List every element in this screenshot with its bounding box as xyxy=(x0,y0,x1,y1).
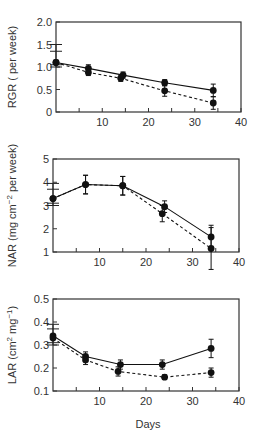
data-point xyxy=(50,335,57,342)
y-axis-title: LAR (cm2 mg−1) xyxy=(5,306,18,384)
x-tick-label: 10 xyxy=(93,256,105,268)
data-point xyxy=(210,87,217,94)
x-tick-label: 10 xyxy=(93,395,105,407)
y-tick-label: 0.5 xyxy=(34,293,49,305)
dashed-series-line xyxy=(53,185,211,249)
y-tick-label: 0.1 xyxy=(34,385,49,397)
y-tick-label: 0.5 xyxy=(37,84,52,96)
x-tick-label: 20 xyxy=(142,116,154,128)
y-tick-label: 0.4 xyxy=(34,316,49,328)
data-point xyxy=(159,210,166,217)
x-axis-title: Days xyxy=(135,418,161,430)
data-point xyxy=(161,87,168,94)
y-tick-label: 1.5 xyxy=(37,39,52,51)
x-tick-label: 40 xyxy=(233,395,245,407)
data-point xyxy=(115,368,122,375)
x-tick-label: 40 xyxy=(233,256,245,268)
data-point xyxy=(208,369,215,376)
data-point xyxy=(50,195,57,202)
nar-panel: 1020304012345NAR (mg cm−2 per week) xyxy=(5,144,245,270)
y-tick-label: 0.3 xyxy=(34,339,49,351)
data-point xyxy=(159,361,166,368)
solid-series-line xyxy=(53,336,211,365)
x-tick-label: 20 xyxy=(140,256,152,268)
y-tick-label: 4 xyxy=(43,176,49,188)
data-point xyxy=(85,69,92,76)
x-tick-label: 30 xyxy=(186,256,198,268)
data-point xyxy=(208,345,215,352)
y-tick-label: 1.0 xyxy=(37,61,52,73)
lar-panel: 102030400.10.20.30.40.5LAR (cm2 mg−1) xyxy=(5,293,245,407)
y-tick-label: 1 xyxy=(43,246,49,258)
x-tick-label: 30 xyxy=(189,116,201,128)
y-tick-label: 2 xyxy=(43,223,49,235)
data-point xyxy=(53,59,60,66)
data-point xyxy=(161,374,168,381)
data-point xyxy=(117,75,124,82)
y-tick-label: 5 xyxy=(43,153,49,165)
x-tick-label: 30 xyxy=(186,395,198,407)
y-tick-label: 2.0 xyxy=(37,16,52,28)
data-point xyxy=(82,181,89,188)
data-point xyxy=(119,182,126,189)
data-point xyxy=(208,245,215,252)
data-point xyxy=(82,357,89,364)
x-tick-label: 40 xyxy=(235,116,247,128)
solid-series-line xyxy=(56,63,213,91)
y-axis-title: NAR (mg cm−2 per week) xyxy=(5,144,18,267)
dashed-series-line xyxy=(53,338,211,377)
x-tick-label: 10 xyxy=(96,116,108,128)
y-tick-label: 0.2 xyxy=(34,362,49,374)
chart-figure: 1020304000.51.01.52.0RGR ( per week) 102… xyxy=(0,0,255,443)
x-tick-label: 20 xyxy=(140,395,152,407)
data-point xyxy=(210,100,217,107)
y-tick-label: 0 xyxy=(46,106,52,118)
y-axis-title: RGR ( per week) xyxy=(6,26,18,109)
dashed-series-line xyxy=(56,63,213,104)
rgr-panel: 1020304000.51.01.52.0RGR ( per week) xyxy=(6,16,247,128)
